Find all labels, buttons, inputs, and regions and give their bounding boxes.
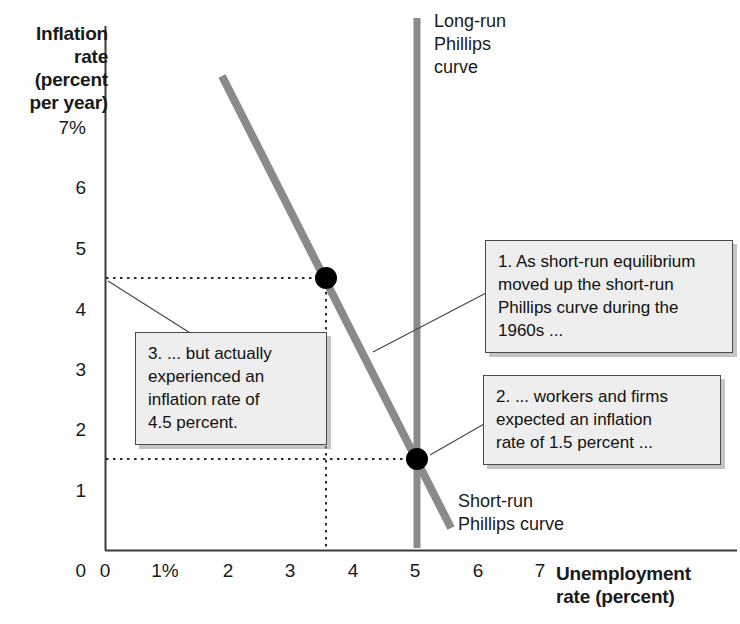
x-tick-5: 5 <box>392 560 438 582</box>
y-axis-title: Inflation rate (percent per year) <box>0 22 108 114</box>
phillips-curve-figure: Inflation rate (percent per year) Unempl… <box>0 0 740 624</box>
equilibrium-point-lower <box>406 448 428 470</box>
x-tick-7: 7 <box>517 560 563 582</box>
y-tick-0: 0 <box>40 560 86 582</box>
y-tick-5: 5 <box>40 238 86 260</box>
x-tick-2: 2 <box>205 560 251 582</box>
y-tick-7: 7% <box>40 117 86 139</box>
x-tick-3: 3 <box>267 560 313 582</box>
y-tick-6: 6 <box>40 177 86 199</box>
x-tick-1: 1% <box>142 560 188 582</box>
y-tick-3: 3 <box>40 359 86 381</box>
x-tick-4: 4 <box>330 560 376 582</box>
leader-line-callout-1 <box>373 293 486 352</box>
x-tick-0: 0 <box>82 560 128 582</box>
leader-line-callout-2-visible <box>430 424 484 455</box>
long-run-curve-label: Long-run Phillips curve <box>434 10 506 79</box>
callout-2: 2. ... workers and firms expected an inf… <box>483 375 721 465</box>
y-tick-1: 1 <box>40 480 86 502</box>
callout-1: 1. As short-run equilibrium moved up the… <box>485 240 733 353</box>
callout-3: 3. ... but actually experienced an infla… <box>135 332 327 445</box>
equilibrium-point-upper <box>315 267 337 289</box>
y-tick-2: 2 <box>40 419 86 441</box>
short-run-curve-label: Short-run Phillips curve <box>458 490 564 536</box>
x-axis-title: Unemployment rate (percent) <box>556 562 740 608</box>
y-tick-4: 4 <box>40 299 86 321</box>
x-tick-6: 6 <box>455 560 501 582</box>
